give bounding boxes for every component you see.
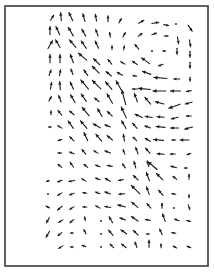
vector-arrow <box>145 138 150 141</box>
vector-arrow <box>83 192 87 195</box>
vector-arrow <box>107 94 113 104</box>
vector-arrow <box>176 48 179 54</box>
vector-arrow <box>48 41 53 49</box>
vector-arrow <box>46 231 50 237</box>
vector-arrow <box>105 191 111 194</box>
vector-arrow <box>80 121 86 129</box>
vector-arrow <box>188 205 191 210</box>
plot-frame <box>5 6 208 266</box>
vector-arrow <box>105 205 111 208</box>
vector-arrow <box>82 149 86 154</box>
vector-arrow <box>58 139 62 141</box>
vector-arrow <box>159 190 163 195</box>
vector-arrow <box>146 172 150 180</box>
vector-arrow <box>95 29 98 36</box>
vector-arrow <box>188 25 192 31</box>
vector-arrow <box>138 87 150 91</box>
vector-arrow <box>69 193 74 196</box>
vector-arrow <box>188 195 190 198</box>
vector-arrow <box>145 125 151 128</box>
vector-arrow <box>146 233 149 235</box>
vector-arrow <box>173 207 175 209</box>
vector-arrow <box>185 127 193 130</box>
vector-arrow <box>123 149 126 154</box>
vector-arrow <box>155 101 164 104</box>
vector-arrow <box>152 21 159 24</box>
vector-arrow <box>132 61 137 64</box>
vector-field-plot <box>0 0 215 273</box>
vector-arrow <box>171 89 181 93</box>
vector-arrow <box>84 70 88 76</box>
vector-arrow <box>171 126 179 129</box>
vector-arrow <box>82 179 86 182</box>
vector-arrow <box>110 244 114 248</box>
vector-arrow <box>68 27 73 36</box>
vector-arrow <box>154 76 167 80</box>
vector-arrow <box>105 150 111 153</box>
vector-arrow <box>146 187 149 195</box>
vector-arrow <box>70 162 73 167</box>
vector-arrow <box>122 164 125 168</box>
vector-arrow <box>84 133 88 141</box>
vector-arrow <box>83 206 87 209</box>
vector-arrow <box>170 153 175 156</box>
vector-arrow <box>81 41 86 48</box>
vector-arrow <box>51 15 54 20</box>
vector-arrow <box>70 82 74 89</box>
vector-arrow <box>133 123 137 128</box>
vector-arrow <box>122 134 125 141</box>
vector-arrow <box>69 152 74 155</box>
vector-arrow <box>185 102 192 105</box>
vector-arrow <box>96 134 102 141</box>
vector-arrow <box>187 246 191 248</box>
vector-arrow <box>145 115 152 118</box>
vector-arrow <box>59 13 62 21</box>
vector-arrow <box>175 23 177 25</box>
vector-arrow <box>48 126 51 128</box>
vector-arrow <box>59 70 62 76</box>
vector-arrow <box>70 207 74 210</box>
vector-arrow <box>92 80 100 88</box>
vector-arrow <box>95 178 100 181</box>
vector-arrow <box>157 115 164 118</box>
vector-arrow <box>58 233 62 236</box>
vector-arrow <box>171 165 177 168</box>
vector-arrow <box>107 165 112 168</box>
vector-arrow <box>146 148 150 153</box>
vector-arrow <box>68 121 73 128</box>
vector-arrow <box>142 71 150 75</box>
vector-arrow <box>133 230 138 235</box>
vector-arrow <box>100 233 102 235</box>
vector-arrow <box>48 55 51 63</box>
vector-arrow <box>189 62 192 68</box>
vector-arrow <box>134 93 138 101</box>
vector-arrow <box>188 174 191 179</box>
vector-arrow <box>135 44 139 49</box>
vector-arrow <box>69 180 75 183</box>
vector-arrow <box>50 82 53 89</box>
vector-arrow <box>172 193 176 196</box>
vector-arrow <box>133 137 137 141</box>
vector-arrow <box>132 202 138 207</box>
vector-arrow <box>157 152 164 155</box>
vector-arrow <box>56 40 61 48</box>
vector-arrow <box>95 192 100 195</box>
vector-arrow <box>145 97 151 104</box>
vector-arrow <box>123 33 126 37</box>
vector-arrow <box>94 98 99 102</box>
vector-arrow <box>71 95 76 103</box>
vector-arrow <box>174 78 180 81</box>
vector-arrow <box>70 137 74 141</box>
vector-arrow <box>121 90 126 104</box>
vector-arrow <box>107 136 112 140</box>
vector-arrow <box>92 66 99 73</box>
vector-arrow <box>109 217 113 223</box>
vector-arrow <box>134 242 137 248</box>
vector-arrow <box>131 185 139 193</box>
vector-arrow <box>100 220 102 222</box>
vector-arrow <box>93 124 100 128</box>
vector-arrow <box>156 125 165 129</box>
vector-arrow <box>187 153 191 155</box>
vector-arrow <box>153 89 166 93</box>
vector-arrow <box>177 37 180 44</box>
